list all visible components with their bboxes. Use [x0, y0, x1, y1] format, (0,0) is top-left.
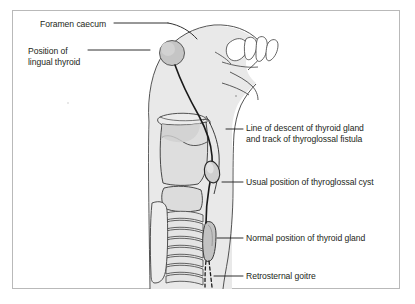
label-line-of-descent-line2: and track of thyroglossal fistula [246, 134, 364, 145]
nasal-cavity [226, 37, 278, 62]
label-lingual-thyroid: Position of lingual thyroid [28, 46, 80, 67]
cricoid-cartilage [162, 186, 203, 211]
label-lingual-thyroid-line2: lingual thyroid [28, 57, 80, 68]
label-thyroglossal-cyst: Usual position of thyroglossal cyst [246, 177, 374, 188]
sternum-manubrium [150, 202, 167, 283]
thyroid-gland [203, 222, 216, 262]
label-line-of-descent: Line of descent of thyroid gland and tra… [246, 123, 364, 144]
lingual-thyroid-circle [160, 41, 185, 66]
label-lingual-thyroid-line1: Position of [28, 46, 80, 57]
speckle-dot-2 [67, 102, 68, 103]
label-retrosternal-goitre: Retrosternal goitre [246, 271, 316, 282]
figure-page: Foramen caecum Position of lingual thyro… [0, 0, 415, 304]
label-line-of-descent-line1: Line of descent of thyroid gland [246, 123, 364, 134]
thyroid-cartilage [160, 119, 210, 185]
label-foramen-caecum: Foramen caecum [40, 19, 106, 30]
speckle-dot [235, 95, 236, 96]
label-normal-thyroid-position: Normal position of thyroid gland [246, 233, 365, 244]
